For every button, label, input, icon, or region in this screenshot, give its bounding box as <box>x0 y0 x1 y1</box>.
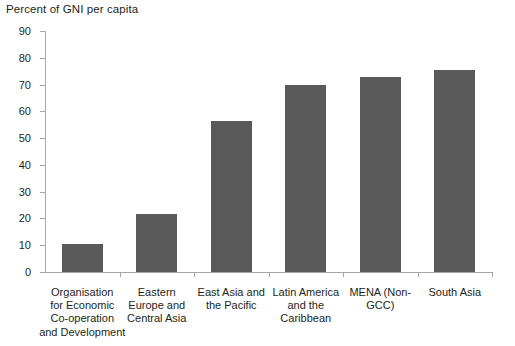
y-tick-label: 0 <box>25 266 31 278</box>
y-tick <box>40 192 45 193</box>
x-axis-label-line: South Asia <box>407 286 504 299</box>
bar <box>211 121 252 272</box>
bar <box>434 70 475 272</box>
bar-chart: Percent of GNI per capita 01020304050607… <box>0 0 515 346</box>
chart-title: Percent of GNI per capita <box>6 3 138 15</box>
y-tick <box>40 218 45 219</box>
x-tick <box>492 272 493 277</box>
y-tick-label: 60 <box>19 105 31 117</box>
y-tick <box>40 138 45 139</box>
y-tick-label: 10 <box>19 239 31 251</box>
y-tick-label: 40 <box>19 159 31 171</box>
x-axis-label: South Asia <box>407 286 504 299</box>
y-tick-label: 30 <box>19 186 31 198</box>
bar <box>360 77 401 272</box>
bar <box>62 244 103 272</box>
y-tick <box>40 58 45 59</box>
x-axis-label-line: GCC) <box>332 299 429 312</box>
bar <box>136 214 177 272</box>
x-tick <box>418 272 419 277</box>
y-tick <box>40 85 45 86</box>
x-axis-label-line: Central Asia <box>109 312 206 325</box>
x-tick <box>269 272 270 277</box>
x-tick <box>194 272 195 277</box>
y-axis-line <box>45 31 46 272</box>
y-tick <box>40 165 45 166</box>
y-tick <box>40 245 45 246</box>
y-tick <box>40 31 45 32</box>
y-tick <box>40 272 45 273</box>
plot-area: 0102030405060708090 <box>45 31 492 272</box>
bar <box>285 85 326 272</box>
x-axis-label-line: Caribbean <box>258 312 355 325</box>
y-tick-label: 80 <box>19 52 31 64</box>
y-tick-label: 20 <box>19 212 31 224</box>
y-tick-label: 70 <box>19 79 31 91</box>
y-tick-label: 50 <box>19 132 31 144</box>
y-tick <box>40 111 45 112</box>
x-tick <box>120 272 121 277</box>
y-tick-label: 90 <box>19 25 31 37</box>
x-axis-label-line: and Development <box>34 326 131 339</box>
x-tick <box>343 272 344 277</box>
